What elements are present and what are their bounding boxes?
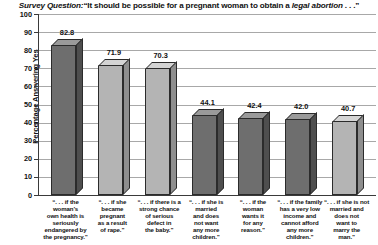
plot-area: 100908070605040302010082.871.970.344.142… — [38, 14, 376, 196]
gridline — [38, 14, 376, 15]
bar-value-label: 42.4 — [234, 102, 274, 110]
bar — [98, 58, 123, 195]
x-axis-category-label: “. . . if shebecamepregnantas a resultof… — [88, 198, 137, 233]
x-axis-category-line: cannot afford — [275, 219, 324, 226]
x-axis-category-line: marry the — [322, 226, 371, 233]
y-axis-tick — [34, 123, 39, 124]
bar-side-face — [217, 108, 224, 195]
x-axis-category-label: “. . . if thewoman’sown health isserious… — [41, 198, 90, 241]
x-axis-category-line: does not — [322, 212, 371, 219]
x-axis-category-line: “. . . if there is a — [135, 198, 184, 205]
x-axis-category-line: of serious — [135, 212, 184, 219]
y-axis-tick-label: 60 — [0, 83, 32, 90]
x-axis-category-line: strong chance — [135, 205, 184, 212]
bar-value-label: 44.1 — [188, 99, 228, 107]
bar-side-face — [263, 111, 270, 195]
x-axis-category-line: “. . . if she — [88, 198, 137, 205]
y-axis-tick-label: 50 — [0, 101, 32, 108]
bar-side-face — [76, 38, 83, 195]
x-axis-category-label: “. . . if there is astrong chanceof seri… — [135, 198, 184, 233]
x-axis-category-line: as a result — [88, 219, 137, 226]
x-axis-category-line: defect in — [135, 219, 184, 226]
x-axis-category-line: has a very low — [275, 205, 324, 212]
x-axis-category-line: of rape.” — [88, 226, 137, 233]
x-axis-category-line: “. . . if she is — [182, 198, 231, 205]
chart-title: Survey Question:“It should be possible f… — [0, 0, 378, 12]
y-axis-tick — [34, 177, 39, 178]
y-axis-tick-label: 30 — [0, 137, 32, 144]
y-axis-tick — [34, 32, 39, 33]
chart-title-lead: Survey Question: — [19, 1, 84, 10]
x-axis-category-line: endangered by — [41, 226, 90, 233]
x-axis-line — [38, 195, 376, 196]
x-axis-category-label: “. . . if thewomanwants itfor anyreason.… — [228, 198, 277, 233]
bar — [145, 61, 170, 195]
x-axis-category-line: married — [182, 205, 231, 212]
x-axis-category-line: man.” — [322, 233, 371, 240]
bar-side-face — [170, 61, 177, 195]
bar-front-face — [192, 115, 217, 195]
bar — [192, 108, 217, 195]
x-axis-category-label: “. . . if she is notmarried anddoes notw… — [322, 198, 371, 241]
chart-title-quote-close: . . .” — [343, 1, 360, 10]
bar-side-face — [310, 112, 317, 195]
x-axis-category-line: “. . . if the — [228, 198, 277, 205]
bar-value-label: 82.8 — [47, 29, 87, 37]
chart-title-emphasis: legal abortion — [292, 1, 343, 10]
x-axis-category-line: seriously — [41, 219, 90, 226]
x-axis-category-line: “. . . if the family — [275, 198, 324, 205]
x-axis-category-line: woman — [228, 205, 277, 212]
bar — [332, 114, 357, 195]
bar-front-face — [285, 119, 310, 195]
y-axis-tick-label: 40 — [0, 119, 32, 126]
bar-side-face — [123, 58, 130, 195]
x-axis-category-line: woman’s — [41, 205, 90, 212]
x-axis-category-line: children.” — [182, 233, 231, 240]
bar — [238, 111, 263, 195]
bar-value-label: 42.0 — [281, 103, 321, 111]
x-axis-category-line: own health is — [41, 212, 90, 219]
x-axis-category-label: “. . . if she ismarriedand doesnot wanta… — [182, 198, 231, 241]
x-axis-category-line: not want — [182, 219, 231, 226]
bar-value-label: 70.3 — [141, 52, 181, 60]
x-axis-category-line: “. . . if the — [41, 198, 90, 205]
bar-front-face — [98, 65, 123, 195]
x-axis-category-line: reason.” — [228, 226, 277, 233]
bar-front-face — [145, 68, 170, 195]
y-axis-tick — [34, 195, 39, 196]
gridline — [38, 32, 376, 33]
y-axis-tick-label: 10 — [0, 173, 32, 180]
y-axis-tick-label: 90 — [0, 29, 32, 36]
y-axis-tick-label: 80 — [0, 47, 32, 54]
gridline — [38, 68, 376, 69]
y-axis-tick-label: 70 — [0, 65, 32, 72]
x-axis-tick-labels: “. . . if thewoman’sown health isserious… — [38, 198, 376, 245]
chart-title-quote-open: “It should be possible for a pregnant wo… — [83, 1, 291, 10]
y-axis-tick-label: 20 — [0, 155, 32, 162]
y-axis-tick — [34, 50, 39, 51]
y-axis-tick — [34, 141, 39, 142]
abortion-survey-bar-chart: Survey Question:“It should be possible f… — [0, 0, 378, 245]
x-axis-category-line: children.” — [275, 233, 324, 240]
x-axis-category-line: the pregnancy.” — [41, 233, 90, 240]
x-axis-category-line: became — [88, 205, 137, 212]
y-axis-tick — [34, 105, 39, 106]
x-axis-category-line: want to — [322, 219, 371, 226]
bar-front-face — [51, 45, 76, 195]
x-axis-category-line: pregnant — [88, 212, 137, 219]
bar-front-face — [238, 118, 263, 195]
x-axis-category-line: the baby.” — [135, 226, 184, 233]
x-axis-category-line: and does — [182, 212, 231, 219]
x-axis-category-line: any more — [182, 226, 231, 233]
gridline — [38, 86, 376, 87]
y-axis-tick-label: 100 — [0, 11, 32, 18]
x-axis-category-label: “. . . if the familyhas a very lowincome… — [275, 198, 324, 241]
gridline — [38, 50, 376, 51]
y-axis-tick — [34, 14, 39, 15]
x-axis-category-line: “. . . if she is not — [322, 198, 371, 205]
x-axis-category-line: income and — [275, 212, 324, 219]
y-axis-tick-label: 0 — [0, 192, 32, 199]
bar — [285, 112, 310, 195]
x-axis-category-line: wants it — [228, 212, 277, 219]
y-axis-tick — [34, 68, 39, 69]
